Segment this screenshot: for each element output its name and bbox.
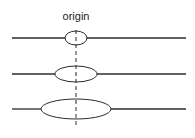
row-3 (12, 99, 186, 119)
origin-label: origin (63, 10, 90, 22)
row-2 (12, 66, 186, 82)
row-1 (12, 31, 186, 45)
diagram-canvas: origin (0, 0, 195, 138)
